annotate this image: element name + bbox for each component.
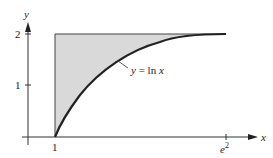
y-axis-arrow-icon — [25, 22, 31, 32]
x-axis-arrow-icon — [248, 134, 258, 140]
x-tick-label-1: 1 — [52, 141, 58, 153]
y-axis-label: y — [23, 8, 29, 20]
y-tick-label-1: 1 — [15, 79, 21, 91]
x-axis-label: x — [260, 131, 266, 143]
x-tick-label-e: e2 — [220, 141, 229, 155]
ln-area-diagram: y x 2 1 1 e2 y = ln x — [0, 0, 273, 158]
y-tick-label-2: 2 — [15, 28, 21, 40]
curve-label-leader — [118, 61, 128, 68]
curve-equation-label: y = ln x — [130, 64, 164, 76]
